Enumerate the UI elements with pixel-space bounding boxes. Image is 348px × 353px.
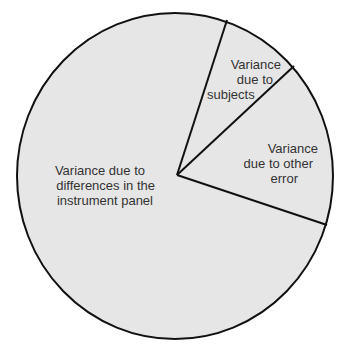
label-instrument-panel: Variance due to differences in the instr… bbox=[47, 163, 159, 208]
label-line: instrument panel bbox=[47, 193, 159, 208]
label-line: differences in the bbox=[47, 178, 159, 193]
label-line: due to bbox=[207, 72, 281, 87]
label-line: error bbox=[240, 171, 318, 186]
label-other-error: Variance due to other error bbox=[240, 141, 318, 186]
label-subjects: Variance due to subjects bbox=[207, 57, 281, 102]
label-line: due to other bbox=[240, 156, 318, 171]
label-line: Variance due to bbox=[47, 163, 159, 178]
label-line: Variance bbox=[240, 141, 318, 156]
label-line: Variance bbox=[207, 57, 281, 72]
label-line: subjects bbox=[207, 87, 281, 102]
